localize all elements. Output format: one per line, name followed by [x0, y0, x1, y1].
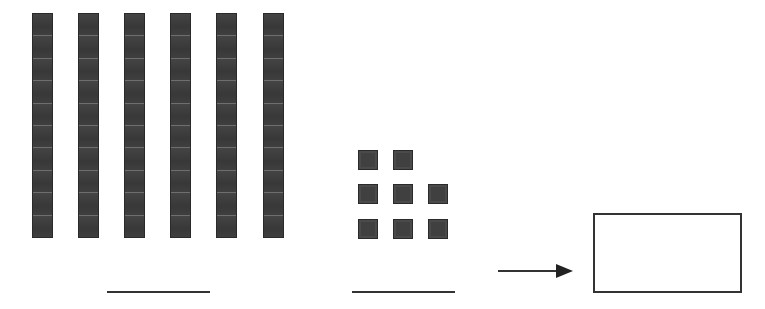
total-answer-box[interactable]: [593, 213, 742, 293]
rod-segment: [33, 193, 52, 215]
rod-segment: [79, 193, 98, 215]
rod-segment: [171, 81, 190, 103]
rod-segment: [125, 104, 144, 126]
rod-segment: [171, 193, 190, 215]
rod-segment: [79, 81, 98, 103]
rod-segment: [171, 148, 190, 170]
rod-segment: [33, 36, 52, 58]
rod-segment: [33, 171, 52, 193]
rod-segment: [264, 126, 283, 148]
rod-segment: [217, 59, 236, 81]
rod-segment: [171, 14, 190, 36]
rod-segment: [217, 148, 236, 170]
rod-segment: [125, 126, 144, 148]
rod-segment: [217, 126, 236, 148]
rod-segment: [217, 81, 236, 103]
rod-segment: [125, 216, 144, 237]
unit-cube: [393, 184, 413, 204]
rod-segment: [33, 81, 52, 103]
rod-segment: [264, 171, 283, 193]
rod-segment: [264, 14, 283, 36]
unit-cube: [428, 219, 448, 239]
rod-segment: [125, 14, 144, 36]
rod-segment: [171, 171, 190, 193]
rod-segment: [79, 126, 98, 148]
rod-segment: [217, 193, 236, 215]
rod-segment: [264, 216, 283, 237]
tens-answer-line[interactable]: [107, 291, 210, 293]
rod-segment: [264, 36, 283, 58]
rod-segment: [33, 148, 52, 170]
unit-cube: [393, 219, 413, 239]
ten-rod: [263, 13, 284, 238]
ten-rod: [216, 13, 237, 238]
rod-segment: [79, 36, 98, 58]
rod-segment: [171, 104, 190, 126]
rod-segment: [125, 148, 144, 170]
ones-answer-line[interactable]: [352, 291, 455, 293]
rod-segment: [33, 104, 52, 126]
rod-segment: [79, 104, 98, 126]
ten-rod: [78, 13, 99, 238]
unit-cube: [358, 150, 378, 170]
rod-segment: [125, 81, 144, 103]
rod-segment: [264, 81, 283, 103]
rod-segment: [264, 59, 283, 81]
rod-segment: [33, 216, 52, 237]
ten-rod: [32, 13, 53, 238]
rod-segment: [79, 59, 98, 81]
unit-cube: [358, 184, 378, 204]
rod-segment: [79, 216, 98, 237]
rod-segment: [79, 14, 98, 36]
rod-segment: [217, 171, 236, 193]
unit-cube: [358, 219, 378, 239]
rod-segment: [33, 14, 52, 36]
rod-segment: [171, 36, 190, 58]
ten-rod: [124, 13, 145, 238]
rod-segment: [264, 148, 283, 170]
rod-segment: [33, 126, 52, 148]
rod-segment: [125, 36, 144, 58]
unit-cube: [393, 150, 413, 170]
rod-segment: [171, 59, 190, 81]
arrow-shaft: [498, 270, 558, 272]
rod-segment: [125, 193, 144, 215]
unit-cube: [428, 184, 448, 204]
rod-segment: [217, 216, 236, 237]
rod-segment: [217, 36, 236, 58]
rod-segment: [125, 171, 144, 193]
rod-segment: [217, 104, 236, 126]
rod-segment: [171, 126, 190, 148]
rod-segment: [79, 148, 98, 170]
ten-rod: [170, 13, 191, 238]
rod-segment: [217, 14, 236, 36]
rod-segment: [264, 193, 283, 215]
rod-segment: [33, 59, 52, 81]
arrow-head: [556, 264, 573, 278]
rod-segment: [125, 59, 144, 81]
rod-segment: [171, 216, 190, 237]
rod-segment: [264, 104, 283, 126]
rod-segment: [79, 171, 98, 193]
